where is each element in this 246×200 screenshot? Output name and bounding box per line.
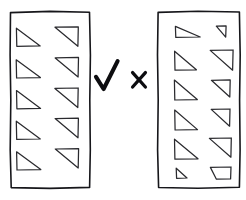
left-panel-triangle-r2c1 — [16, 60, 40, 78]
right-panel-shape-r4c2 — [211, 109, 230, 126]
right-panel-shape-r5c1 — [175, 139, 199, 159]
right-panel-shape-r3c2 — [211, 80, 230, 97]
verdict-marks-group — [96, 61, 145, 89]
left-panel-triangle-r3c2 — [55, 88, 78, 108]
right-panel-shape-r4c1 — [175, 110, 198, 130]
right-panel-shape-r2c2 — [210, 50, 233, 70]
left-panel-group — [10, 11, 90, 188]
left-panel-triangle-r4c1 — [16, 121, 40, 139]
sketch-figure — [0, 0, 246, 200]
comparison-sketch-canvas — [0, 0, 246, 200]
right-panel-shape-r6c1 — [176, 168, 187, 178]
left-panel-triangle-r4c2 — [55, 118, 78, 138]
right-panel-group — [158, 11, 241, 188]
left-panel-triangle-r5c2 — [55, 149, 78, 168]
left-panel-triangle-r1c1 — [16, 28, 40, 46]
left-panel-triangle-r3c1 — [17, 91, 41, 109]
right-panel-shape-r3c1 — [174, 80, 197, 100]
check-mark-icon — [96, 61, 118, 89]
right-panel-shape-r6c2 — [210, 167, 231, 179]
right-panel-shape-r2c1 — [175, 51, 197, 70]
left-panel-triangle-r2c2 — [55, 57, 78, 77]
right-panel-shape-r1c1 — [175, 26, 200, 37]
cross-mark-icon — [133, 73, 146, 87]
right-panel-shape-r5c2 — [209, 138, 231, 157]
right-panel-shape-r1c2 — [216, 26, 226, 37]
left-panel-triangle-r5c1 — [17, 152, 41, 170]
left-panel-triangle-r1c2 — [55, 27, 78, 47]
right-panel-frame — [158, 11, 241, 188]
